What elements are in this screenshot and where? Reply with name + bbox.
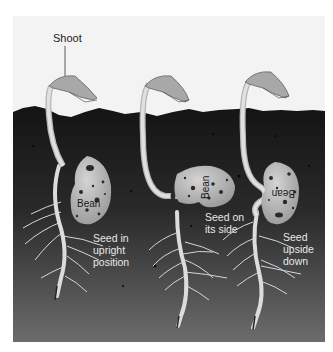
bean-label: Bean: [272, 188, 295, 199]
caption-line: upside: [283, 243, 314, 255]
caption-line: its side: [205, 223, 238, 235]
shoot-label: Shoot: [53, 32, 82, 44]
caption-line: Seed in: [93, 232, 129, 244]
caption-line: position: [93, 256, 129, 268]
bean-label: Bean: [77, 198, 100, 209]
bean-label: Bean: [200, 176, 211, 199]
seedling-diagram: Shoot Bean Seed in upright positi: [13, 16, 325, 342]
caption-line: Seed: [283, 231, 308, 243]
caption-line: Seed on: [205, 211, 244, 223]
caption-line: down: [283, 255, 308, 267]
caption-line: upright: [93, 244, 125, 256]
